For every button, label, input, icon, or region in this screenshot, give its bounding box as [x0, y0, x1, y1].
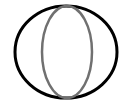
inner-ellipse [42, 6, 92, 98]
outer-ellipse [15, 6, 117, 98]
sphere-icon-canvas [0, 0, 125, 111]
sphere-icon [0, 0, 125, 111]
